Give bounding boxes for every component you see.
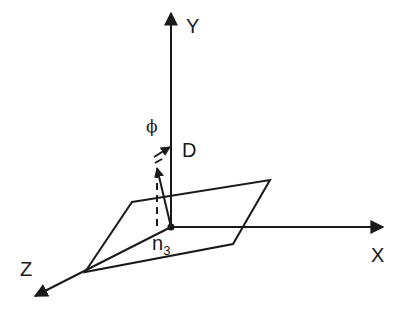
x-axis-label: X [371,244,384,266]
phi-label: ϕ [146,116,158,136]
origin-point [168,224,175,231]
n3-label: n3 [152,232,170,258]
n3-label-subscript: 3 [163,243,170,258]
coordinate-diagram: Y X Z ϕ D n3 [0,0,408,310]
n3-label-base: n [152,232,163,254]
vector-n3-tick [155,159,162,163]
z-axis [35,227,171,296]
y-axis-label: Y [186,15,199,37]
d-label: D [182,139,196,161]
z-axis-label: Z [20,258,32,280]
vector-d [154,147,170,157]
